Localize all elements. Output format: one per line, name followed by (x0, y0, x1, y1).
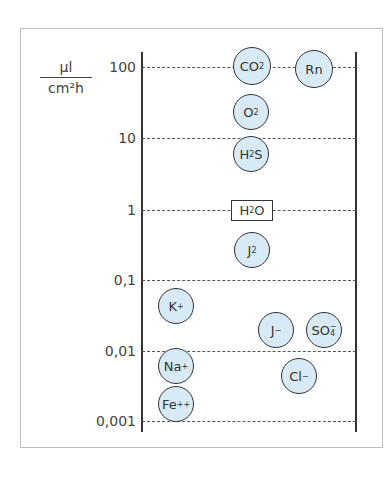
ion-na: Na+ (158, 348, 194, 384)
tick-label: 1 (86, 202, 136, 218)
gridline-0-1 (142, 280, 356, 281)
tick-label: 100 (86, 59, 136, 75)
ion-fe: Fe++ (158, 386, 194, 422)
fraction-bar (40, 77, 92, 78)
ion-cl: Cl− (281, 358, 317, 394)
ion-so4: SO−4 (306, 312, 342, 348)
ion-k: K+ (158, 288, 194, 324)
molecule-co2: CO2 (233, 47, 271, 85)
molecule-h2s: H2S (233, 136, 269, 172)
molecule-o2: O2 (233, 94, 269, 130)
tick-label: 10 (86, 130, 136, 146)
tick-label: 0,01 (86, 343, 136, 359)
y-axis-unit: µl cm²h (40, 58, 92, 97)
unit-denominator: cm²h (40, 79, 92, 97)
molecule-rn: Rn (295, 50, 333, 88)
ion-j-minus: J− (258, 312, 294, 348)
unit-numerator: µl (40, 58, 92, 76)
left-axis (141, 52, 143, 432)
molecule-j2: J2 (234, 232, 270, 268)
right-axis (355, 52, 357, 432)
molecule-h2o: H2O (231, 200, 273, 221)
tick-label: 0,1 (86, 272, 136, 288)
tick-label: 0,001 (86, 413, 136, 429)
